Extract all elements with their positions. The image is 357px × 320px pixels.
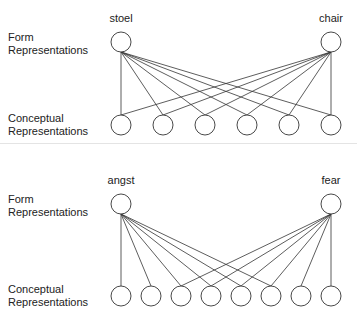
word-angst: angst — [108, 174, 135, 186]
concept-node — [231, 286, 251, 306]
concept-node — [261, 286, 281, 306]
concept-node — [279, 115, 299, 135]
link-line — [121, 214, 241, 286]
concept-node — [237, 115, 257, 135]
word-fear: fear — [322, 174, 341, 186]
link-line — [121, 52, 163, 115]
label-line: Representations — [8, 206, 88, 219]
label-line: Form — [8, 193, 88, 206]
link-line — [205, 52, 331, 115]
link-line — [241, 214, 331, 286]
form-node — [321, 32, 341, 52]
label-line: Form — [8, 31, 88, 44]
panel-1 — [111, 194, 341, 306]
concept-node — [141, 286, 161, 306]
link-line — [301, 214, 331, 286]
label-line: Representations — [8, 125, 88, 138]
link-line — [247, 52, 331, 115]
link-line — [121, 214, 211, 286]
label-line: Conceptual — [8, 112, 88, 125]
concept-node — [111, 286, 131, 306]
form-node — [111, 194, 131, 214]
concept-node — [201, 286, 221, 306]
concept-node — [111, 115, 131, 135]
concept-node — [321, 286, 341, 306]
label-line: Conceptual — [8, 283, 88, 296]
link-line — [121, 52, 247, 115]
link-line — [121, 52, 289, 115]
form-representations-label-bottom: Form Representations — [8, 193, 88, 219]
concept-node — [321, 115, 341, 135]
form-node — [111, 32, 131, 52]
concept-node — [153, 115, 173, 135]
word-stoel: stoel — [109, 12, 132, 24]
panel-0 — [111, 32, 341, 135]
link-line — [163, 52, 331, 115]
conceptual-representations-label-top: Conceptual Representations — [8, 112, 88, 138]
word-chair: chair — [319, 12, 343, 24]
form-representations-label-top: Form Representations — [8, 31, 88, 57]
panel-separator — [0, 143, 357, 144]
link-line — [121, 214, 271, 286]
concept-node — [291, 286, 311, 306]
link-line — [211, 214, 331, 286]
link-line — [271, 214, 331, 286]
label-line: Representations — [8, 44, 88, 57]
conceptual-representations-label-bottom: Conceptual Representations — [8, 283, 88, 309]
link-line — [121, 214, 151, 286]
link-line — [289, 52, 331, 115]
concept-node — [195, 115, 215, 135]
link-line — [181, 214, 331, 286]
link-line — [121, 52, 205, 115]
form-node — [321, 194, 341, 214]
link-line — [121, 214, 181, 286]
label-line: Representations — [8, 296, 88, 309]
concept-node — [171, 286, 191, 306]
